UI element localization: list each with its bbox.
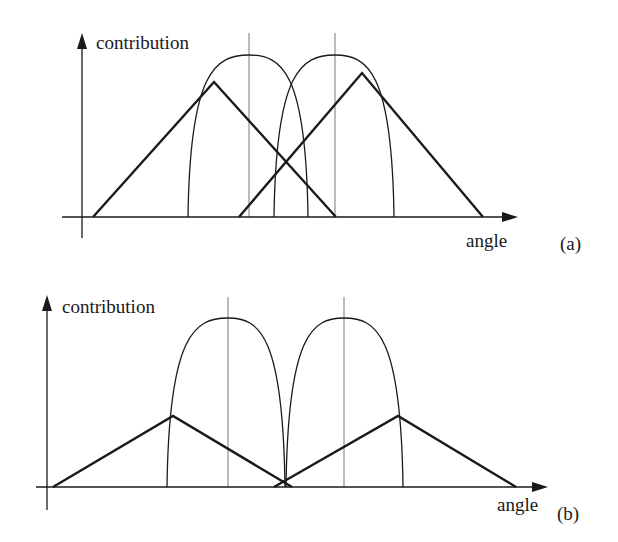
panel-a: contributionangle(a): [62, 32, 581, 255]
y-axis-arrow-icon: [77, 33, 87, 49]
lobe-curve: [188, 55, 308, 217]
panel-b: contributionangle(b): [36, 295, 579, 525]
figure: contributionangle(a) contributionangle(b…: [0, 0, 618, 542]
triangle-function: [239, 73, 483, 217]
x-axis-arrow-icon: [532, 482, 548, 492]
y-axis-arrow-icon: [42, 295, 52, 311]
x-axis-label: angle: [466, 230, 507, 251]
y-axis-label: contribution: [96, 32, 189, 53]
panel-tag: (b): [557, 503, 579, 525]
x-axis-arrow-icon: [502, 212, 518, 222]
triangle-function: [53, 416, 292, 487]
y-axis-label: contribution: [62, 296, 155, 317]
panel-tag: (a): [560, 233, 581, 255]
lobe-curve: [274, 55, 394, 217]
lobe-curve: [286, 318, 403, 487]
x-axis-label: angle: [497, 494, 538, 515]
lobe-curve: [167, 318, 285, 487]
triangle-function: [274, 416, 516, 487]
triangle-function: [93, 82, 336, 217]
